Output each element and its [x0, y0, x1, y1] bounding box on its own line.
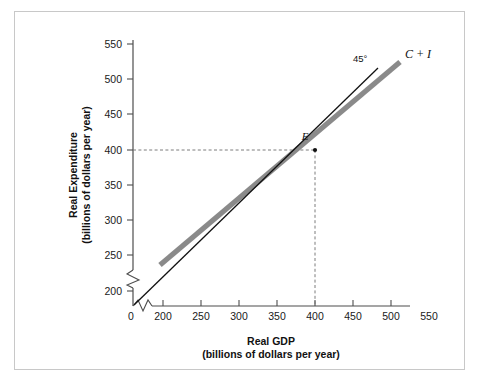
y-tick-label-200: 200	[104, 285, 122, 297]
y-tick-label-300: 300	[104, 214, 122, 226]
y-axis-break-icon	[127, 270, 139, 288]
y-tick-label-350: 350	[104, 179, 122, 191]
x-axis-ticks	[163, 300, 391, 306]
keynesian-cross-chart: 550 500 450 400 350 300 250 200 0 200 25…	[0, 0, 489, 389]
y-axis-tick-labels: 550 500 450 400 350 300 250 200	[104, 38, 122, 297]
x-tick-label-500: 500	[382, 310, 400, 322]
x-axis-break-icon	[133, 300, 152, 311]
x-tick-label-450: 450	[344, 310, 362, 322]
angle-45-label: 45°	[353, 53, 368, 64]
x-axis-tick-labels: 0 200 250 300 350 400 450 500 550	[128, 310, 438, 322]
x-tick-label-250: 250	[192, 310, 210, 322]
x-axis-subtitle: (billions of dollars per year)	[202, 348, 340, 360]
x-origin-label: 0	[128, 310, 134, 322]
x-tick-label-350: 350	[268, 310, 286, 322]
figure-page: 550 500 450 400 350 300 250 200 0 200 25…	[0, 0, 489, 389]
y-axis-subtitle: (billions of dollars per year)	[80, 106, 92, 244]
y-tick-label-550: 550	[104, 38, 122, 50]
equilibrium-point-label: E	[301, 130, 309, 142]
y-axis-title: Real Expenditure	[67, 132, 79, 218]
y-tick-label-500: 500	[104, 73, 122, 85]
x-tick-label-300: 300	[230, 310, 248, 322]
equilibrium-point-marker	[313, 148, 317, 152]
x-tick-label-200: 200	[154, 310, 172, 322]
y-tick-label-250: 250	[104, 249, 122, 261]
series-c-plus-i-label: C + I	[405, 47, 432, 61]
x-axis-title: Real GDP	[247, 335, 295, 347]
x-tick-label-400: 400	[306, 310, 324, 322]
y-axis-ticks	[127, 44, 133, 291]
y-tick-label-400: 400	[104, 144, 122, 156]
x-tick-label-550: 550	[420, 310, 438, 322]
y-tick-label-450: 450	[104, 108, 122, 120]
series-45-degree-line	[134, 68, 378, 305]
